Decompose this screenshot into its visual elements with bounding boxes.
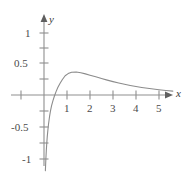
x-tick-label-1: 1 bbox=[64, 103, 70, 114]
y-axis-label: y bbox=[49, 14, 54, 25]
x-tick-label-3: 3 bbox=[110, 103, 116, 114]
data-curve bbox=[45, 72, 172, 171]
x-axis-arrow-icon bbox=[165, 92, 173, 99]
x-axis-label: x bbox=[176, 88, 181, 99]
x-tick-label-4: 4 bbox=[133, 103, 139, 114]
y-axis-arrow-icon bbox=[41, 14, 48, 22]
x-tick-label-5: 5 bbox=[156, 103, 162, 114]
x-tick-label-2: 2 bbox=[87, 103, 93, 114]
y-tick-label-neg-0.5: -0.5 bbox=[11, 122, 28, 133]
y-tick-label-0.5: 0.5 bbox=[14, 58, 28, 69]
graph-figure: 1 0.5 -0.5 -1 1 2 3 4 5 x y bbox=[0, 0, 188, 173]
y-tick-label-neg-1: -1 bbox=[22, 154, 31, 165]
y-tick-label-1: 1 bbox=[25, 28, 31, 39]
coordinate-plot bbox=[0, 0, 188, 173]
